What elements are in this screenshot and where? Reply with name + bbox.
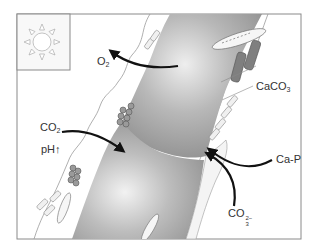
label-caco3: CaCO3	[256, 81, 290, 93]
sun-icon	[24, 24, 60, 60]
label-cap-main: Ca-P	[276, 153, 301, 165]
label-co3: CO2−3	[228, 208, 252, 227]
label-caco3-main: CaCO	[256, 80, 287, 92]
label-cap: Ca-P	[276, 154, 301, 165]
label-co3-charge: 2−3	[246, 215, 253, 227]
diagram-canvas: O2 CO2 pH↑ CaCO3 Ca-P CO2−3	[0, 0, 315, 249]
label-caco3-sub: 3	[287, 86, 291, 93]
label-o2-main: O	[97, 55, 106, 67]
label-co3-sub: 3	[246, 221, 253, 227]
label-o2: O2	[97, 56, 109, 68]
granule-cluster-lower	[68, 165, 81, 186]
ph-up-arrow-icon: ↑	[55, 143, 61, 155]
label-co2: CO2	[40, 122, 60, 134]
label-ph-main: pH	[41, 143, 55, 155]
sun-inset	[17, 14, 70, 70]
label-co2-sub: 2	[57, 127, 61, 134]
label-o2-sub: 2	[106, 61, 110, 68]
label-co2-main: CO	[40, 121, 57, 133]
label-ph: pH↑	[41, 144, 61, 155]
label-co3-main: CO	[228, 207, 245, 219]
